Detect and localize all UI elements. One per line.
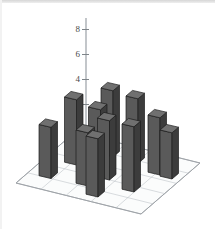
bar-r1-c0 [39, 119, 58, 179]
bar3d-plot-canvas [0, 0, 215, 229]
chart-figure: 8 6 4 [0, 0, 215, 229]
bar-r3-c2 [86, 130, 105, 197]
z-tick-label-4: 4 [68, 75, 80, 84]
bar-r3-c4 [160, 124, 179, 179]
z-tick-label-8: 8 [68, 25, 80, 34]
bar-r3-c3 [122, 118, 141, 192]
z-tick-label-6: 6 [68, 50, 80, 59]
